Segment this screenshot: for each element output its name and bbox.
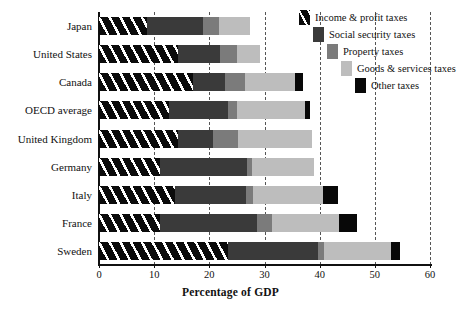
bar-segment: [99, 73, 193, 91]
tick-mark: [99, 264, 100, 268]
category-label: Canada: [59, 76, 92, 88]
bar-segment: [213, 130, 238, 148]
bar-segment: [323, 186, 338, 204]
legend-item[interactable]: Other taxes: [355, 78, 419, 93]
bar-segment: [99, 242, 228, 260]
stacked-bar: [99, 101, 310, 119]
bar-segment: [175, 186, 246, 204]
category-label: United States: [33, 48, 92, 60]
legend-swatch-icon: [327, 44, 338, 59]
bar-row: OECD average: [99, 101, 430, 119]
bar-segment: [272, 214, 340, 232]
bar-segment: [178, 130, 213, 148]
category-label: Germany: [51, 161, 92, 173]
stacked-bar: [99, 242, 400, 260]
legend-swatch-icon: [299, 10, 310, 25]
bar-segment: [228, 242, 318, 260]
bar-row: Germany: [99, 158, 430, 176]
legend-item[interactable]: Income & profit taxes: [299, 10, 407, 25]
bar-row: France: [99, 214, 430, 232]
x-tick-label: 30: [259, 269, 270, 281]
legend-item[interactable]: Social security taxes: [313, 27, 415, 42]
bar-segment: [99, 101, 169, 119]
legend-label: Income & profit taxes: [315, 12, 407, 24]
x-tick-label: 40: [314, 269, 325, 281]
bar-segment: [257, 214, 272, 232]
chart-legend: Income & profit taxesSocial security tax…: [299, 10, 461, 102]
bar-segment: [238, 130, 312, 148]
stacked-bar: [99, 186, 338, 204]
stacked-bar: [99, 17, 250, 35]
stacked-bar-chart: JapanUnited StatesCanadaOECD averageUnit…: [0, 0, 461, 309]
bar-segment: [99, 214, 160, 232]
legend-item[interactable]: Property taxes: [327, 44, 403, 59]
bar-segment: [99, 45, 178, 63]
bar-segment: [169, 101, 228, 119]
category-label: OECD average: [25, 104, 92, 116]
bar-segment: [160, 214, 257, 232]
bar-segment: [237, 101, 305, 119]
legend-label: Property taxes: [343, 46, 403, 58]
bar-row: United Kingdom: [99, 130, 430, 148]
bar-segment: [147, 17, 203, 35]
category-label: Sweden: [57, 245, 92, 257]
bar-segment: [237, 45, 260, 63]
legend-label: Social security taxes: [329, 29, 415, 41]
bar-segment: [219, 17, 250, 35]
bar-row: Italy: [99, 186, 430, 204]
bar-segment: [193, 73, 225, 91]
legend-label: Goods & services taxes: [357, 63, 456, 75]
bar-segment: [339, 214, 356, 232]
bar-segment: [246, 186, 253, 204]
x-axis-title: Percentage of GDP: [0, 286, 461, 298]
category-label: United Kingdom: [18, 133, 92, 145]
x-tick-label: 60: [425, 269, 436, 281]
bar-row: Sweden: [99, 242, 430, 260]
bar-segment: [305, 101, 310, 119]
x-tick-label: 50: [370, 269, 381, 281]
bar-segment: [99, 186, 175, 204]
tick-mark: [320, 264, 321, 268]
stacked-bar: [99, 214, 357, 232]
tick-mark: [209, 264, 210, 268]
tick-mark: [154, 264, 155, 268]
x-tick-label: 20: [204, 269, 215, 281]
bar-segment: [99, 158, 160, 176]
bar-segment: [220, 45, 237, 63]
legend-label: Other taxes: [371, 80, 419, 92]
stacked-bar: [99, 73, 303, 91]
tick-mark: [375, 264, 376, 268]
tick-mark: [265, 264, 266, 268]
category-label: France: [62, 217, 92, 229]
category-label: Italy: [72, 189, 92, 201]
bar-segment: [99, 17, 147, 35]
bar-segment: [252, 158, 314, 176]
bar-segment: [391, 242, 399, 260]
legend-item[interactable]: Goods & services taxes: [341, 61, 456, 76]
bar-segment: [245, 73, 295, 91]
x-tick-label: 0: [96, 269, 101, 281]
bar-segment: [228, 101, 237, 119]
stacked-bar: [99, 130, 312, 148]
bar-segment: [253, 186, 323, 204]
bar-segment: [225, 73, 245, 91]
category-label: Japan: [67, 20, 92, 32]
tick-mark: [430, 264, 431, 268]
bar-segment: [324, 242, 391, 260]
bar-segment: [99, 130, 178, 148]
bar-segment: [203, 17, 219, 35]
stacked-bar: [99, 45, 260, 63]
bar-segment: [178, 45, 220, 63]
legend-swatch-icon: [355, 78, 366, 93]
bar-segment: [160, 158, 247, 176]
x-tick-label: 10: [149, 269, 160, 281]
legend-swatch-icon: [313, 27, 324, 42]
legend-swatch-icon: [341, 61, 352, 76]
stacked-bar: [99, 158, 314, 176]
